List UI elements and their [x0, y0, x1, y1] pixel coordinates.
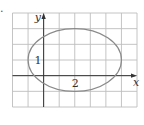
x-axis-label: x: [133, 76, 140, 89]
ellipse-graph: y x 1 2: [0, 0, 144, 125]
grid-lines: [13, 13, 138, 107]
y-axis-label: y: [34, 11, 42, 24]
y-tick-label-1: 1: [34, 54, 41, 67]
x-tick-label-2: 2: [72, 77, 79, 90]
y-axis-arrow-icon: [41, 13, 45, 19]
